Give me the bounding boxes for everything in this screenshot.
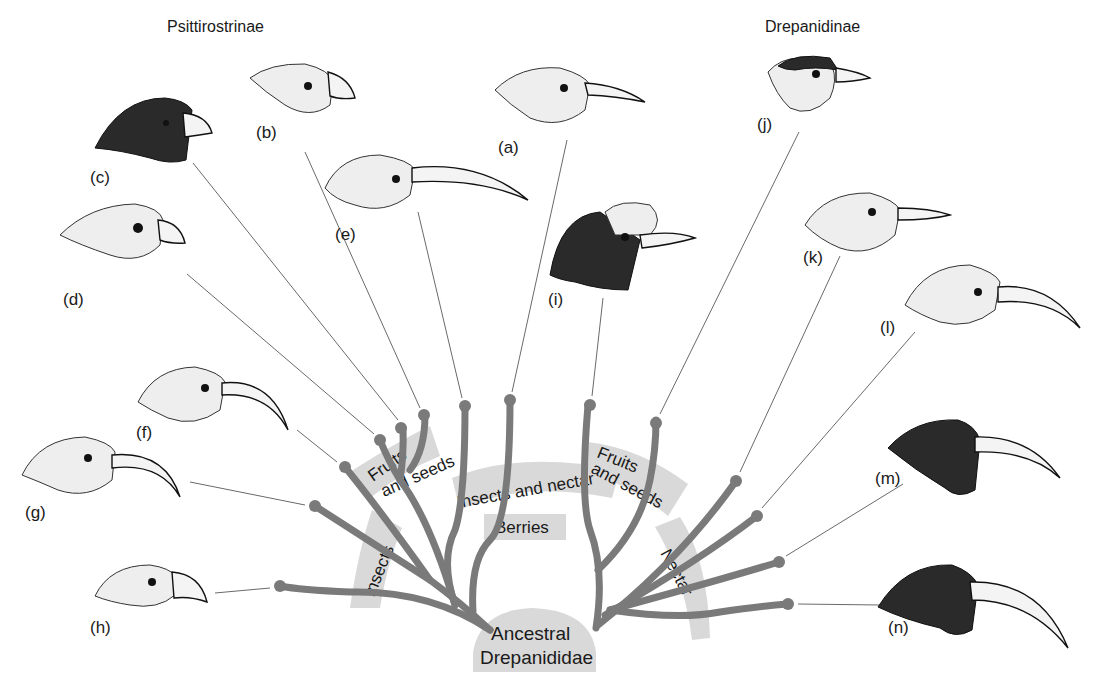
specimen-label-f: (f): [136, 423, 152, 442]
bird-head-k-icon: [805, 193, 950, 251]
specimen-label-g: (g): [25, 503, 46, 522]
adaptive-radiation-diagram: Psittirostrinae Drepanidinae Insects Fru…: [0, 0, 1094, 683]
specimen-label-e: (e): [335, 225, 356, 244]
bird-head-l-icon: [905, 265, 1080, 328]
specimen-label-m: (m): [875, 469, 900, 488]
bird-head-d-icon: [60, 204, 185, 258]
bird-head-f-icon: [138, 367, 288, 430]
subfamily-psittirostrinae: Psittirostrinae: [167, 18, 264, 35]
subfamily-drepanidinae: Drepanidinae: [765, 18, 860, 35]
specimen-label-n: (n): [888, 618, 909, 637]
bird-head-a-icon: [495, 68, 645, 123]
bird-head-j-icon: [768, 56, 870, 111]
bird-head-h-icon: [95, 565, 207, 606]
bird-head-g-icon: [22, 437, 180, 497]
bird-head-e-icon: [325, 155, 528, 208]
specimen-label-i: (i): [548, 290, 563, 309]
specimen-label-l: (l): [880, 318, 895, 337]
bird-head-i-icon: [550, 203, 695, 290]
bird-head-c-icon: [95, 98, 212, 162]
bird-head-m-icon: [888, 420, 1060, 495]
specimen-label-b: (b): [256, 123, 277, 142]
specimen-label-d: (d): [63, 290, 84, 309]
ancestor-label-2: Drepanididae: [480, 647, 593, 668]
bird-head-b-icon: [250, 64, 355, 113]
specimen-label-j: (j): [757, 115, 772, 134]
ancestor-label-1: Ancestral: [491, 623, 570, 644]
specimen-label-k: (k): [803, 248, 823, 267]
specimen-label-c: (c): [90, 168, 110, 187]
bird-heads: [22, 56, 1080, 648]
specimen-label-a: (a): [498, 138, 519, 157]
specimen-label-h: (h): [90, 618, 111, 637]
